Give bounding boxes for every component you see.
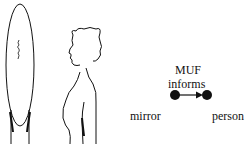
target-node-label: person: [212, 110, 244, 122]
mirror-drawing: [6, 4, 34, 144]
arrowhead-icon: [196, 92, 203, 99]
person-node: [202, 90, 212, 100]
edge-label: informs: [168, 78, 205, 90]
relation-label: MUF: [175, 64, 201, 76]
relation-graph: [170, 90, 212, 100]
source-node-label: mirror: [130, 110, 161, 122]
person-drawing: [63, 28, 102, 145]
